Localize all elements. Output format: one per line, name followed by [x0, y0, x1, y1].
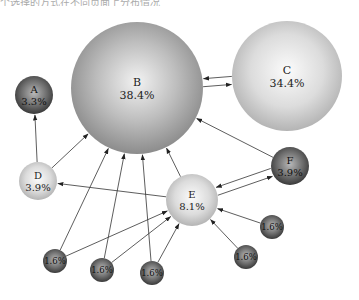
node-value: 3.9%: [277, 167, 302, 178]
node-label: C: [283, 64, 291, 77]
edge-S3-to-B: [142, 155, 151, 261]
edge-D-to-A: [35, 115, 37, 162]
node-value: 1.6%: [261, 222, 283, 232]
edge-B-to-C: [203, 84, 231, 86]
node-circle: [19, 162, 57, 200]
edge-S2-to-B: [104, 154, 124, 258]
node-value: 1.6%: [235, 252, 257, 262]
node-value: 1.6%: [91, 265, 113, 275]
node-f: F3.9%: [271, 147, 309, 185]
edge-D-to-B: [52, 134, 88, 168]
node-e: E8.1%: [166, 174, 218, 226]
node-value: 34.4%: [270, 77, 305, 90]
node-value: 1.6%: [141, 268, 163, 278]
node-label: D: [34, 170, 42, 181]
node-s2: 1.6%: [90, 258, 114, 282]
node-label: A: [29, 84, 38, 95]
node-c: C34.4%: [232, 21, 342, 131]
node-d: D3.9%: [19, 162, 57, 200]
node-value: 3.3%: [21, 96, 46, 107]
edge-S5-to-E: [211, 220, 238, 249]
node-circle: [15, 76, 53, 114]
node-value: 38.4%: [120, 89, 155, 102]
node-label: E: [188, 189, 195, 200]
edge-S1-to-E: [66, 211, 167, 256]
node-s4: 1.6%: [260, 215, 284, 239]
node-value: 3.9%: [25, 182, 50, 193]
nodes-layer: A3.3%B38.4%C34.4%D3.9%E8.1%F3.9%1.6%1.6%…: [15, 21, 342, 285]
node-circle: [166, 174, 218, 226]
node-s5: 1.6%: [234, 245, 258, 269]
node-circle: [271, 147, 309, 185]
node-a: A3.3%: [15, 76, 53, 114]
node-s1: 1.6%: [43, 249, 67, 273]
edge-S3-to-E: [158, 224, 179, 263]
node-label: F: [287, 155, 294, 166]
edge-S4-to-E: [218, 209, 261, 224]
edge-E-to-F: [218, 176, 273, 195]
edge-E-to-B: [167, 148, 181, 177]
node-b: B38.4%: [71, 22, 203, 154]
node-value: 1.6%: [44, 256, 66, 266]
node-value: 8.1%: [179, 201, 204, 212]
node-label: B: [133, 76, 141, 89]
edge-S1-to-B: [60, 149, 108, 251]
node-s3: 1.6%: [140, 261, 164, 285]
edge-F-to-E: [216, 168, 271, 187]
edge-E-to-D: [58, 183, 166, 196]
edge-C-to-B: [203, 76, 231, 78]
flow-diagram: A3.3%B38.4%C34.4%D3.9%E8.1%F3.9%1.6%1.6%…: [0, 0, 359, 300]
